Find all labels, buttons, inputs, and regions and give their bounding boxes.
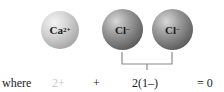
grouping-bracket	[0, 0, 224, 92]
plus-sign: +	[93, 76, 100, 91]
equation-prefix: where	[2, 76, 31, 91]
equation-result: = 0	[197, 76, 213, 91]
calcium-charge-term: 2+	[52, 76, 65, 91]
chloride-charge-term: 2(1–)	[132, 76, 158, 91]
